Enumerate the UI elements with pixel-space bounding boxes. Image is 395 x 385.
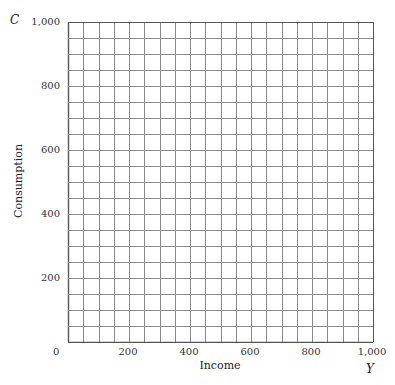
- x-tick-800: 800: [301, 346, 320, 357]
- y-tick-600: 600: [24, 144, 60, 155]
- x-tick-200: 200: [118, 346, 137, 357]
- y-tick-1000: 1,000: [24, 16, 60, 27]
- y-tick-800: 800: [24, 80, 60, 91]
- origin-label: 0: [53, 346, 59, 357]
- y-tick-200: 200: [24, 272, 60, 283]
- y-axis-variable: C: [10, 13, 19, 27]
- x-tick-1000: 1,000: [358, 346, 387, 357]
- x-tick-400: 400: [179, 346, 198, 357]
- x-tick-600: 600: [240, 346, 259, 357]
- y-axis-title: Consumption: [12, 144, 25, 218]
- y-tick-400: 400: [24, 208, 60, 219]
- x-axis-variable: Y: [366, 362, 374, 376]
- x-axis-title: Income: [199, 359, 240, 372]
- graph-grid: [67, 21, 374, 343]
